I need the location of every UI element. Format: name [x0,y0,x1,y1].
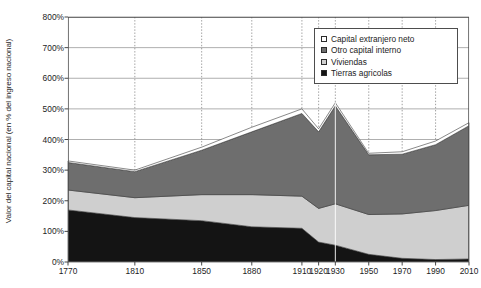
legend-label: Viviendas [331,57,367,67]
legend-label: Otro capital interno [331,45,401,55]
chart-legend: Capital extranjero netoOtro capital inte… [314,28,458,84]
x-tick-label: 1850 [192,266,211,276]
legend-item: Tierras agricolas [321,68,451,80]
x-tick-label: 1970 [393,266,412,276]
legend-swatch-icon [321,59,327,65]
legend-label: Capital extranjero neto [331,34,414,44]
legend-swatch-icon [321,70,327,76]
x-tick-label: 1880 [242,266,261,276]
x-tick-label: 1770 [59,266,78,276]
x-tick-label: 1990 [426,266,445,276]
x-tick-label: 1810 [126,266,145,276]
stacked-area-chart: Valor del capital nacional (en % del ing… [0,0,481,288]
legend-item: Viviendas [321,56,451,68]
legend-item: Otro capital interno [321,45,451,57]
legend-label: Tierras agricolas [331,68,392,78]
legend-item: Capital extranjero neto [321,33,451,45]
x-tick-label: 1950 [359,266,378,276]
legend-swatch-icon [321,36,327,42]
x-tick-label: 1930 [326,266,345,276]
legend-swatch-icon [321,47,327,53]
x-tick-label: 2010 [460,266,479,276]
